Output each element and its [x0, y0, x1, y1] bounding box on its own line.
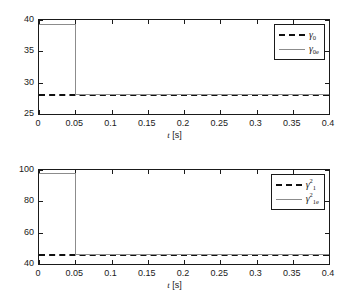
legend-item-gamma1sq: γ21	[276, 178, 319, 192]
x-tick-top	[329, 170, 330, 174]
y-tick	[39, 170, 43, 171]
x-axis-title-top: t [s]	[0, 130, 349, 140]
chart-panel-bottom: γ21 γ21e t [s] 00.050.10.150.20.250.30.3…	[0, 150, 349, 300]
y-tick-right	[325, 233, 329, 234]
plot-area-top: γ0 γ0e	[38, 19, 330, 115]
x-tick-top	[293, 20, 294, 24]
y-tick	[39, 20, 43, 21]
y-tick-right	[325, 51, 329, 52]
x-tick-label: 0.4	[308, 269, 348, 278]
y-tick	[39, 51, 43, 52]
x-tick-label: 0.3	[236, 119, 276, 128]
legend-label-gamma0e: γ0e	[309, 44, 319, 55]
x-tick-top	[184, 20, 185, 24]
x-tick-label: 0.3	[236, 269, 276, 278]
x-tick	[329, 260, 330, 264]
y-tick-label: 40	[8, 259, 34, 268]
series-segment-gamma_0e	[75, 94, 329, 95]
y-tick-label: 40	[8, 15, 34, 24]
x-tick-label: 0.1	[91, 269, 131, 278]
legend-key-solid-icon	[276, 194, 302, 204]
y-tick-label: 35	[8, 46, 34, 55]
y-tick-right	[325, 264, 329, 265]
legend-key-solid-icon	[279, 44, 305, 54]
legend-label-gamma1sq: γ21	[306, 180, 316, 191]
y-tick	[39, 233, 43, 234]
x-tick	[112, 110, 113, 114]
x-tick-top	[257, 170, 258, 174]
x-tick-top	[329, 20, 330, 24]
chart-panel-top: γ0 γ0e t [s] 00.050.10.150.20.250.30.350…	[0, 0, 349, 150]
figure-container: γ0 γ0e t [s] 00.050.10.150.20.250.30.350…	[0, 0, 349, 300]
x-tick-label: 0.35	[272, 269, 312, 278]
x-tick-top	[148, 20, 149, 24]
legend-bottom: γ21 γ21e	[271, 174, 325, 210]
x-tick-label: 0	[18, 269, 58, 278]
legend-label-gamma1esq: γ21e	[306, 194, 319, 205]
y-tick-label: 30	[8, 78, 34, 87]
x-tick	[257, 260, 258, 264]
y-tick-right	[325, 170, 329, 171]
series-segment-gamma_1e_squared	[75, 173, 76, 254]
y-tick-label: 25	[8, 109, 34, 118]
legend-key-dashed-icon	[276, 180, 302, 190]
y-tick	[39, 83, 43, 84]
series-segment-gamma_1e_squared	[75, 254, 329, 255]
x-tick-label: 0.05	[54, 269, 94, 278]
x-tick-label: 0.2	[163, 119, 203, 128]
series-segment-gamma_0e	[75, 24, 76, 94]
y-tick	[39, 201, 43, 202]
x-tick	[293, 260, 294, 264]
x-tick-top	[220, 20, 221, 24]
legend-item-gamma0e: γ0e	[279, 42, 319, 56]
x-tick-top	[293, 170, 294, 174]
x-tick-top	[112, 170, 113, 174]
y-tick	[39, 264, 43, 265]
x-tick-label: 0.2	[163, 269, 203, 278]
series-segment-gamma_0e	[39, 24, 75, 25]
x-tick	[184, 260, 185, 264]
x-tick	[184, 110, 185, 114]
x-tick	[75, 110, 76, 114]
x-tick	[148, 110, 149, 114]
legend-top: γ0 γ0e	[274, 24, 325, 60]
x-tick	[148, 260, 149, 264]
x-tick-top	[112, 20, 113, 24]
series-segment-gamma_1e_squared	[39, 173, 75, 174]
legend-key-dashed-icon	[279, 30, 305, 40]
plot-area-bottom: γ21 γ21e	[38, 169, 330, 265]
x-tick-top	[184, 170, 185, 174]
x-tick-label: 0.15	[127, 269, 167, 278]
y-tick-right	[325, 114, 329, 115]
x-tick-label: 0.4	[308, 119, 348, 128]
x-tick	[112, 260, 113, 264]
legend-label-gamma0: γ0	[309, 30, 316, 41]
x-tick	[220, 110, 221, 114]
legend-item-gamma1esq: γ21e	[276, 192, 319, 206]
x-tick-label: 0.1	[91, 119, 131, 128]
x-tick	[329, 110, 330, 114]
x-tick	[257, 110, 258, 114]
x-axis-title-bottom: t [s]	[0, 280, 349, 290]
x-tick	[293, 110, 294, 114]
y-tick-right	[325, 20, 329, 21]
x-tick	[75, 260, 76, 264]
x-tick-label: 0.25	[199, 119, 239, 128]
x-tick-top	[148, 170, 149, 174]
x-tick-label: 0.05	[54, 119, 94, 128]
y-tick-right	[325, 201, 329, 202]
y-tick-label: 80	[8, 196, 34, 205]
x-tick-top	[220, 170, 221, 174]
x-tick-top	[257, 20, 258, 24]
x-tick-label: 0.35	[272, 119, 312, 128]
x-tick-label: 0.15	[127, 119, 167, 128]
legend-item-gamma0: γ0	[279, 28, 319, 42]
y-tick-label: 100	[8, 165, 34, 174]
y-tick	[39, 114, 43, 115]
y-tick-label: 60	[8, 228, 34, 237]
x-tick	[220, 260, 221, 264]
x-tick-label: 0.25	[199, 269, 239, 278]
x-tick-label: 0	[18, 119, 58, 128]
y-tick-right	[325, 83, 329, 84]
